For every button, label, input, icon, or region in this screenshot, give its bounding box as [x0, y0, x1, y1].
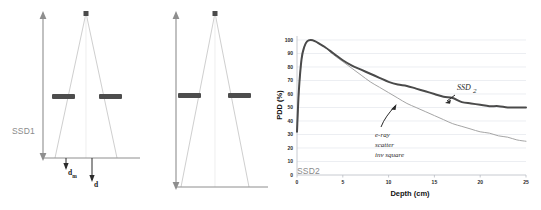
pdd-depth-chart: 0102030405060708090100 0510152025 PDD (%…	[270, 0, 541, 210]
y-tick-label-40: 40	[287, 118, 293, 124]
depth-marker-d-label: d	[94, 180, 98, 189]
annotation-ssd2-subscript: 2	[473, 87, 477, 95]
y-axis-ticks: 0102030405060708090100	[285, 37, 294, 178]
beam-geometry-ssd2-svg	[150, 0, 270, 210]
annotation-ssd2-text: SSD	[457, 83, 471, 92]
collimator-jaw-right	[228, 93, 251, 98]
beam-diagram-ssd1: SSD1 dm d	[0, 0, 150, 210]
y-tick-label-60: 60	[287, 91, 293, 97]
beam-diagram-ssd2: SSD2	[150, 0, 270, 210]
y-tick-label-70: 70	[287, 77, 293, 83]
x-tick-label-20: 20	[477, 179, 483, 185]
chart-curves	[297, 40, 526, 141]
pdd-chart-svg: 0102030405060708090100 0510152025 PDD (%…	[270, 0, 541, 210]
y-tick-label-0: 0	[290, 172, 293, 178]
x-tick-label-10: 10	[386, 179, 392, 185]
collimator-jaw-right	[99, 94, 122, 99]
y-tick-label-20: 20	[287, 145, 293, 151]
y-tick-label-10: 10	[287, 158, 293, 164]
pdd-ssd-figure: SSD1 dm d	[0, 0, 541, 210]
x-tick-label-25: 25	[523, 179, 529, 185]
y-tick-label-90: 90	[287, 50, 293, 56]
x-axis-ticks: 0510152025	[296, 175, 529, 185]
radiation-source-point-icon	[84, 11, 89, 16]
y-tick-label-100: 100	[285, 37, 294, 43]
annotation-ssd2-callout: SSD 2	[445, 83, 477, 104]
y-tick-label-50: 50	[287, 104, 293, 110]
depth-marker-dm-label: dm	[68, 168, 77, 179]
y-axis-title: PDD (%)	[275, 90, 284, 120]
y-tick-label-80: 80	[287, 64, 293, 70]
ssd1-label: SSD1	[12, 126, 35, 136]
beam-geometry-ssd1-svg	[0, 0, 150, 210]
x-tick-label-5: 5	[341, 179, 344, 185]
collimator-jaw-left	[178, 93, 201, 98]
radiation-source-point-icon	[213, 11, 218, 16]
x-axis-title: Depth (cm)	[390, 189, 430, 198]
x-tick-label-15: 15	[432, 179, 438, 185]
chart-gridlines	[297, 40, 526, 162]
collimator-jaw-left	[52, 94, 75, 99]
annotation-scatter-line-3: inv square	[375, 151, 404, 159]
annotation-scatter-line-1: e-ray	[375, 131, 391, 139]
y-tick-label-30: 30	[287, 131, 293, 137]
ssd2-measure-arrow	[173, 11, 180, 190]
depth-marker-d	[89, 158, 94, 182]
pdd-curve-ssd1	[297, 40, 526, 141]
annotation-scatter-callout: e-ray scatter inv square	[375, 104, 404, 159]
x-tick-label-0: 0	[296, 179, 299, 185]
ssd1-measure-arrow	[40, 11, 47, 161]
annotation-scatter-line-2: scatter	[375, 141, 394, 149]
